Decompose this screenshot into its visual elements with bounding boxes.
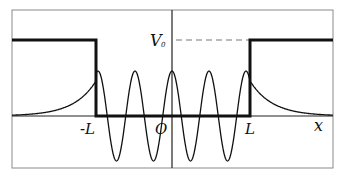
- label-origin: O: [155, 120, 167, 138]
- label-neg-L: -L: [80, 120, 95, 138]
- label-x-axis: x: [314, 116, 323, 135]
- label-L: L: [244, 120, 255, 138]
- potential-well-diagram: -L O L x V 0: [0, 0, 341, 178]
- label-V0-subscript: 0: [161, 41, 166, 49]
